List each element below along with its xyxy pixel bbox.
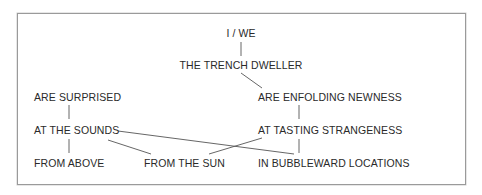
node-from-the-sun: FROM THE SUN	[144, 157, 225, 169]
node-in-bubbleward-locations: IN BUBBLEWARD LOCATIONS	[258, 157, 410, 169]
edge-tasting-sun	[209, 138, 262, 154]
edge-trench-enfolding	[241, 73, 262, 88]
node-are-enfolding-newness: ARE ENFOLDING NEWNESS	[258, 91, 402, 103]
node-are-surprised: ARE SURPRISED	[34, 91, 121, 103]
node-i-we: I / WE	[226, 27, 255, 39]
node-trench-dweller: THE TRENCH DWELLER	[180, 59, 303, 71]
edge-sounds-sun	[108, 140, 151, 154]
node-from-above: FROM ABOVE	[34, 157, 104, 169]
node-at-the-sounds: AT THE SOUNDS	[34, 124, 119, 136]
node-at-tasting-strangeness: AT TASTING STRANGENESS	[258, 124, 402, 136]
